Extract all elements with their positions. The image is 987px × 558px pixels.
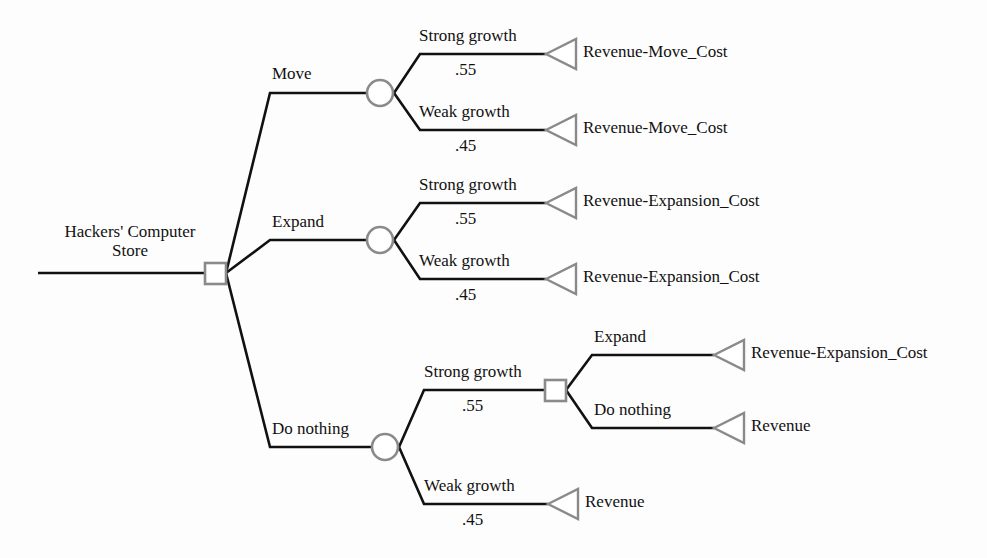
outcome-label-donothing-strong: Strong growth [424,362,522,381]
probability-donothing-weak: .45 [462,510,483,529]
payoff-move-weak: Revenue-Move_Cost [583,118,727,137]
outcome-label-move-strong: Strong growth [419,26,517,45]
payoff-donothing-weak: Revenue [585,492,644,511]
root-label: Hackers' Computer Store [46,222,214,260]
branch-label-do-nothing: Do nothing [272,419,349,438]
outcome-label-donothing-weak: Weak growth [424,476,515,495]
payoff-sub-expand: Revenue-Expansion_Cost [751,343,928,362]
outcome-label-expand-strong: Strong growth [419,175,517,194]
probability-move-strong: .55 [455,60,476,79]
edge-sub-expand [566,355,714,390]
outcome-label-move-weak: Weak growth [419,102,510,121]
terminal-node-move-strong[interactable] [546,39,576,69]
sub-decision-node[interactable] [545,380,566,401]
probability-expand-strong: .55 [455,209,476,228]
sub-option-label-do-nothing: Do nothing [594,400,671,419]
payoff-sub-do-nothing: Revenue [751,416,810,435]
sub-option-label-expand: Expand [594,327,646,346]
probability-move-weak: .45 [455,136,476,155]
branch-label-move: Move [272,64,312,83]
root-label-line2: Store [46,241,214,260]
chance-node-expand[interactable] [367,227,393,253]
terminal-node-sub-do-nothing[interactable] [714,413,744,443]
tree-connector-graphics [0,0,987,558]
branch-label-expand: Expand [272,212,324,231]
probability-expand-weak: .45 [455,285,476,304]
probability-donothing-strong: .55 [462,396,483,415]
payoff-move-strong: Revenue-Move_Cost [583,42,727,61]
terminal-node-donothing-weak[interactable] [548,489,578,519]
root-decision-node[interactable] [205,263,226,284]
root-label-line1: Hackers' Computer [46,222,214,241]
terminal-node-expand-strong[interactable] [546,188,576,218]
terminal-node-move-weak[interactable] [546,115,576,145]
chance-node-move[interactable] [367,80,393,106]
payoff-expand-weak: Revenue-Expansion_Cost [583,267,760,286]
chance-node-do-nothing[interactable] [372,434,398,460]
outcome-label-expand-weak: Weak growth [419,251,510,270]
edge-root-to-expand [226,240,366,273]
payoff-expand-strong: Revenue-Expansion_Cost [583,191,760,210]
terminal-node-sub-expand[interactable] [714,340,744,370]
decision-tree-diagram: Hackers' Computer Store Move Expand Do n… [0,0,987,558]
edge-root-to-move [226,93,366,273]
terminal-node-expand-weak[interactable] [546,264,576,294]
